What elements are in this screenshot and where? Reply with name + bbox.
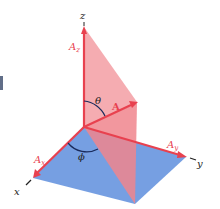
ay-arrowhead [177, 151, 187, 158]
phi-label: ϕ [78, 151, 85, 162]
y-axis-tick [190, 158, 196, 160]
edge-marker [0, 76, 3, 90]
a-vector-label: A [111, 101, 120, 112]
x-axis-tick [26, 180, 31, 185]
ay-label: Ay [166, 139, 179, 152]
x-axis-label: x [14, 186, 20, 197]
z-axis-label: z [79, 10, 86, 21]
vector-diagram: z y x Az Ay Ax A θ ϕ [0, 0, 220, 209]
diagram-canvas: z y x Az Ay Ax A θ ϕ [0, 0, 220, 209]
y-axis-label: y [196, 158, 203, 169]
ax-label: Ax [33, 154, 45, 167]
az-label: Az [68, 41, 80, 54]
theta-label: θ [95, 95, 101, 106]
